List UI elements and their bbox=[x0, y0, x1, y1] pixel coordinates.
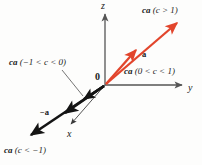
annotation-c-less-than-neg1-ca: ca bbox=[4, 145, 13, 155]
vector-scalar-multiple-figure: z y x 0 a −a ca (c > 1) ca (0 < c < 1) c… bbox=[0, 0, 202, 165]
annotation-c-between-0-and-1: ca (0 < c < 1) bbox=[124, 67, 175, 76]
annotation-c-greater-than-1: ca (c > 1) bbox=[142, 6, 178, 15]
annotation-c-between-neg1-and-0: ca (−1 < c < 0) bbox=[9, 58, 66, 67]
annotation-c-less-than-neg1-cond: (c < −1) bbox=[15, 145, 46, 155]
annotation-c-between-0-and-1-ca: ca bbox=[124, 66, 133, 76]
y-axis-label: y bbox=[188, 83, 192, 93]
annotation-c-less-than-neg1: ca (c < −1) bbox=[4, 146, 46, 155]
vector-a-label: a bbox=[142, 50, 146, 59]
annotation-c-greater-than-1-cond: (c > 1) bbox=[153, 5, 178, 15]
origin-label: 0 bbox=[95, 72, 100, 82]
annotation-c-greater-than-1-ca: ca bbox=[142, 5, 151, 15]
leader-line-ca-neg1-0 bbox=[62, 70, 83, 96]
annotation-c-between-0-and-1-cond: (0 < c < 1) bbox=[135, 66, 175, 76]
x-axis-label: x bbox=[67, 129, 71, 139]
vector-neg-a-label: −a bbox=[40, 108, 49, 117]
annotation-c-between-neg1-and-0-cond: (−1 < c < 0) bbox=[20, 57, 66, 67]
annotation-c-between-neg1-and-0-ca: ca bbox=[9, 57, 18, 67]
figure-canvas bbox=[0, 0, 202, 165]
z-axis-label: z bbox=[101, 1, 105, 11]
